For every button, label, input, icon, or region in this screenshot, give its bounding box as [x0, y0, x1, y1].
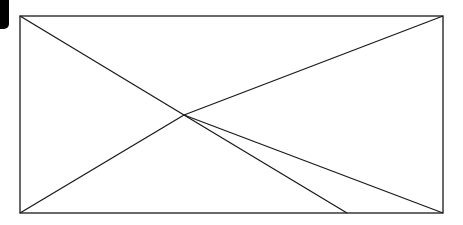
line-center-to-top-right	[184, 16, 443, 115]
line-bottom-left-to-center	[20, 115, 184, 213]
line-center-to-bottom-mid	[184, 115, 347, 213]
frame-rectangle	[20, 16, 443, 213]
diagonal-lines	[20, 16, 443, 213]
line-center-to-bottom-right	[184, 115, 443, 213]
line-top-left-to-center	[20, 16, 184, 115]
placeholder-diagram	[0, 0, 463, 225]
